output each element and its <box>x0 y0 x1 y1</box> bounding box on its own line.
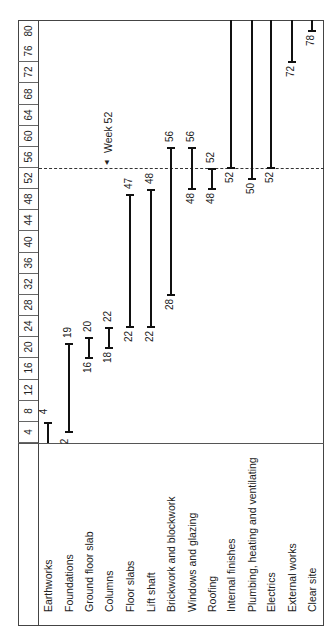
week-52-label: Week 52 <box>102 112 114 153</box>
task-end-label: 4 <box>38 409 49 415</box>
task-bar <box>150 189 152 326</box>
task-bar-cap <box>105 347 113 349</box>
week-tick-40: 40 <box>18 232 38 253</box>
task-start-label: 48 <box>185 193 196 204</box>
task-start-label: 72 <box>285 66 296 77</box>
week-tick-64: 64 <box>18 105 38 126</box>
task-end-label: 47 <box>123 178 134 189</box>
task-bar-cap <box>267 167 275 169</box>
week-tick-28: 28 <box>18 295 38 316</box>
week-tick-label: 60 <box>23 130 34 141</box>
task-label: Electrics <box>265 572 277 612</box>
week-tick-label: 72 <box>23 67 34 78</box>
task-bar-cap <box>188 188 196 190</box>
task-bar-cap <box>126 326 134 328</box>
task-bar-cap <box>126 194 134 196</box>
week-tick-32: 32 <box>18 274 38 295</box>
week-tick-52: 52 <box>18 168 38 189</box>
task-bar-cap <box>208 188 216 190</box>
task-start-label: 50 <box>245 183 256 194</box>
week-tick-12: 12 <box>18 380 38 401</box>
task-bar-cap <box>85 357 93 359</box>
task-bar-cap <box>167 147 175 149</box>
task-end-label: 19 <box>62 326 73 337</box>
task-start-label: 22 <box>144 331 155 342</box>
task-bar <box>170 147 172 295</box>
task-bar <box>291 20 293 62</box>
week-tick-label: 76 <box>23 46 34 57</box>
task-bar-cap <box>208 168 216 170</box>
week-52-dashed-line <box>39 168 324 169</box>
task-bar <box>211 168 213 189</box>
task-bar-cap <box>227 167 235 169</box>
task-label: Internal finishes <box>225 538 237 612</box>
task-label: Ground floor slab <box>83 531 95 612</box>
week-tick-label: 24 <box>23 321 34 332</box>
week-tick-48: 48 <box>18 189 38 210</box>
task-bar-cap <box>147 326 155 328</box>
task-bar <box>251 20 253 179</box>
task-end-label: 48 <box>144 173 155 184</box>
task-label: Brickwork and blockwork <box>165 496 177 612</box>
task-start-label: 2 <box>59 439 70 445</box>
task-bar <box>47 422 49 443</box>
week-tick-label: 20 <box>23 342 34 353</box>
week-tick-20: 20 <box>18 337 38 358</box>
task-bar-cap <box>308 30 316 32</box>
task-bar-cap <box>105 327 113 329</box>
week-axis: 48121620242832364044485256606468727680 <box>18 20 39 444</box>
task-start-label: 16 <box>82 362 93 373</box>
week-tick-label: 44 <box>23 215 34 226</box>
task-label: External works <box>286 543 298 612</box>
week-tick-label: 36 <box>23 257 34 268</box>
task-end-label: 56 <box>164 131 175 142</box>
week-tick-label: 40 <box>23 236 34 247</box>
week-tick-72: 72 <box>18 62 38 83</box>
week-tick-16: 16 <box>18 358 38 379</box>
week-tick-56: 56 <box>18 147 38 168</box>
week-tick-label: 68 <box>23 88 34 99</box>
task-label: Windows and glazing <box>186 513 198 612</box>
week-tick-36: 36 <box>18 253 38 274</box>
task-label: Earthworks <box>42 559 54 612</box>
week-tick-label: 12 <box>23 384 34 395</box>
task-bar <box>68 343 70 433</box>
task-bar-cap <box>65 431 73 433</box>
task-label: Roofing <box>206 576 218 612</box>
task-bar-cap <box>167 294 175 296</box>
task-bar-cap <box>147 189 155 191</box>
week-tick-label: 32 <box>23 278 34 289</box>
task-bar <box>230 20 232 168</box>
week-tick-68: 68 <box>18 83 38 104</box>
week-tick-label: 80 <box>23 25 34 36</box>
task-label: Lift shaft <box>145 572 157 612</box>
task-start-label: 78 <box>305 35 316 46</box>
week-tick-label: 64 <box>23 109 34 120</box>
task-end-label: 52 <box>205 152 216 163</box>
week-tick-label: 4 <box>23 429 34 435</box>
week-tick-4: 4 <box>18 422 38 443</box>
week-tick-76: 76 <box>18 41 38 62</box>
week-tick-label: 52 <box>23 173 34 184</box>
week-tick-label: 56 <box>23 151 34 162</box>
week-tick-24: 24 <box>18 316 38 337</box>
task-bar-cap <box>248 178 256 180</box>
task-label: Floor slabs <box>124 561 136 612</box>
task-start-label: 48 <box>205 193 216 204</box>
week-tick-44: 44 <box>18 210 38 231</box>
task-end-label: 56 <box>185 131 196 142</box>
task-bar-cap <box>65 343 73 345</box>
task-start-label: 22 <box>123 331 134 342</box>
task-label: Foundations <box>63 554 75 612</box>
task-bar <box>270 20 272 168</box>
task-start-label: 52 <box>264 172 275 183</box>
task-start-label: 18 <box>102 352 113 363</box>
task-label: Clear site <box>306 568 318 612</box>
task-bar-cap <box>44 422 52 424</box>
label-column-divider <box>38 443 39 626</box>
task-label: Plumbing, heating and ventilating <box>246 457 258 612</box>
week-tick-label: 28 <box>23 299 34 310</box>
task-start-label: 28 <box>164 299 175 310</box>
task-start-label: 52 <box>224 172 235 183</box>
week-tick-8: 8 <box>18 401 38 422</box>
